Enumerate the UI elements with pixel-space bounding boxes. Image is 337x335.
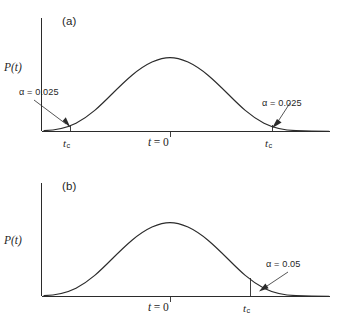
panel-a-alpha-left-label: α = 0.025 (19, 88, 59, 97)
panel-b-origin-var: t (148, 301, 151, 313)
panel-a-tc-right-label: tc (265, 138, 272, 150)
panel-a-tag: (a) (62, 16, 76, 28)
panel-a-origin-label: t= 0 (148, 137, 169, 149)
figure-vector-layer (0, 0, 337, 335)
panel-b-tc-sub: c (246, 306, 250, 315)
panel-a-tc-left-sub: c (66, 141, 70, 150)
panel-a-alpha-left-leader (34, 100, 66, 124)
panel-b-y-axis-label-fn: P (4, 234, 11, 246)
panel-b-y-axis-label-arg: (t) (11, 234, 22, 246)
panel-a-y-axis-label: P(t) (4, 62, 22, 74)
panel-b-alpha-leader (264, 272, 288, 288)
panel-b-group (42, 183, 331, 302)
panel-a-alpha-right-label: α = 0.025 (262, 99, 302, 108)
panel-b-origin-label: t= 0 (148, 302, 169, 314)
panel-b-alpha-label: α = 0.05 (266, 260, 300, 269)
panel-a-alpha-right-arrowhead (272, 119, 282, 128)
panel-b-tc-label: tc (243, 303, 250, 315)
panel-a-origin-eq: = 0 (154, 136, 169, 148)
panel-a-y-axis-label-fn: P (4, 61, 11, 73)
panel-a-y-axis-label-arg: (t) (11, 61, 22, 73)
panel-a-tc-left-label: tc (63, 138, 70, 150)
panel-b-y-axis-label: P(t) (4, 235, 22, 247)
panel-b-tag: (b) (62, 181, 76, 193)
panel-a-distribution-curve (44, 58, 329, 132)
panel-a-tc-right-sub: c (268, 141, 272, 150)
panel-b-origin-eq: = 0 (154, 301, 169, 313)
figure-root: (a) P(t) α = 0.025 α = 0.025 tc tc t= 0 … (0, 0, 337, 335)
panel-a-group (34, 18, 330, 137)
panel-a-origin-var: t (148, 136, 151, 148)
